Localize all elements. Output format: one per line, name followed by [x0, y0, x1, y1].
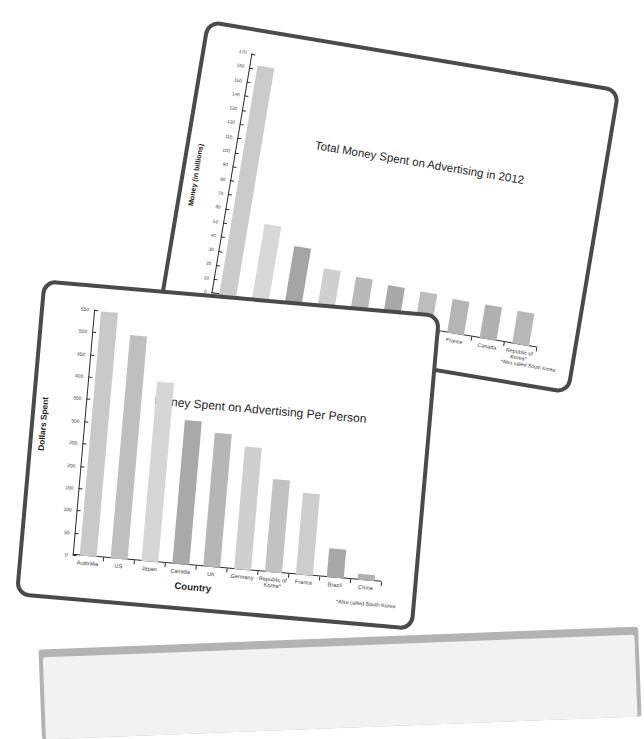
chart2-bar[interactable] [80, 311, 117, 557]
chart2-bar[interactable] [265, 479, 289, 573]
chart2-x-tick [288, 574, 289, 578]
chart2-plot-area: 050100150200250300350400450500550 Austra… [73, 310, 403, 582]
chart1-y-tick: 60 [215, 204, 226, 211]
chart2-bar[interactable] [296, 493, 319, 576]
chart1-x-tick [536, 347, 538, 351]
chart2-x-tick [165, 563, 166, 567]
chart1-y-tick: 100 [222, 147, 235, 154]
chart2-x-axis-title: Country [174, 580, 212, 594]
chart1-y-tick: 120 [227, 119, 240, 126]
chart2-x-tick [134, 560, 135, 564]
chart2-x-tick [226, 568, 227, 572]
chart1-y-tick: 130 [229, 105, 242, 112]
chart2-x-tick [195, 566, 196, 570]
chart2-bar[interactable] [204, 433, 232, 568]
chart1-bar[interactable] [284, 246, 311, 308]
chart2-y-tick-mark [84, 421, 88, 422]
chart2-bar[interactable] [235, 446, 262, 570]
chart1-bar[interactable] [447, 299, 470, 336]
chart2-y-tick: 500 [79, 328, 93, 335]
chart2-y-tick: 250 [69, 439, 83, 446]
chart1-y-tick: 70 [217, 190, 228, 197]
chart1-y-axis-title: Money (in billions) [179, 100, 213, 249]
chart2-bars: AustraliaUSJapanCanadaUKGermanyRepublic … [94, 310, 403, 337]
chart1-y-tick: 140 [231, 91, 244, 98]
chart2-bar[interactable] [111, 335, 147, 559]
chart2-bar[interactable] [358, 574, 375, 581]
chart1-bar[interactable] [512, 311, 534, 346]
chart2-y-tick-mark [82, 443, 86, 444]
chart2-x-tick [103, 558, 104, 562]
chart1-x-tick [471, 337, 473, 341]
chart2-x-tick [381, 582, 382, 586]
chart2-y-tick: 50 [64, 529, 75, 536]
chart2-bar[interactable] [327, 548, 346, 578]
chart2-y-tick-mark [73, 555, 77, 556]
chart1-y-tick: 80 [220, 176, 231, 183]
chart2-y-tick-mark [75, 533, 79, 534]
chart2-bar[interactable] [142, 381, 174, 562]
chart1-x-label: France [437, 336, 471, 347]
chart1-y-tick: 20 [206, 261, 217, 268]
chart1-y-tick: 30 [208, 247, 219, 254]
chart2-y-ticks: 050100150200250300350400450500550 [94, 310, 403, 337]
chart1-y-tick: 110 [225, 133, 238, 140]
chart2-x-tick [319, 576, 320, 580]
chart2-y-tick: 100 [63, 506, 77, 513]
chart2-y-tick: 200 [67, 462, 81, 469]
slide-card-3-partial[interactable] [38, 627, 641, 739]
chart1-x-label: Canada [470, 341, 504, 352]
chart2-y-tick: 150 [65, 484, 79, 491]
slide-card-per-person[interactable]: Dollars Spent Money Spent on Advertising… [15, 279, 441, 631]
chart-money-per-person: Dollars Spent Money Spent on Advertising… [19, 284, 437, 627]
chart1-bar[interactable] [252, 224, 282, 303]
chart1-y-tick: 170 [239, 49, 252, 56]
chart1-y-tick: 10 [203, 275, 214, 282]
chart1-y-tick: 160 [236, 63, 249, 70]
chart1-y-tick: 50 [213, 218, 224, 225]
chart2-y-tick-mark [88, 377, 92, 378]
chart2-y-axis-title: Dollars Spent [32, 348, 55, 498]
chart2-bar[interactable] [173, 420, 202, 565]
chart1-x-tick [503, 342, 505, 346]
chart2-y-tick-mark [78, 488, 82, 489]
chart2-y-tick-mark [92, 332, 96, 333]
chart1-y-tick: 90 [222, 162, 233, 169]
chart1-bars: USJapanChinaGermanyUKBrazilAustraliaFran… [251, 53, 576, 107]
chart2-x-label: China [347, 584, 383, 593]
chart2-y-tick: 0 [65, 551, 73, 558]
chart2-y-tick: 550 [81, 306, 95, 313]
chart1-y-ticks: 0102030405060708090100110120130140150160… [251, 53, 576, 107]
chart1-y-tick: 150 [234, 77, 247, 84]
chart2-y-tick: 450 [77, 350, 91, 357]
slide-card-3-surface [43, 635, 638, 739]
chart2-y-tick: 350 [73, 395, 87, 402]
chart1-y-tick: 40 [210, 233, 221, 240]
chart2-footnote: *Also called South Korea [336, 598, 396, 609]
chart2-y-tick: 300 [71, 417, 85, 424]
chart1-bar[interactable] [480, 304, 503, 341]
chart2-y-tick: 400 [75, 372, 89, 379]
chart2-x-tick [350, 579, 351, 583]
